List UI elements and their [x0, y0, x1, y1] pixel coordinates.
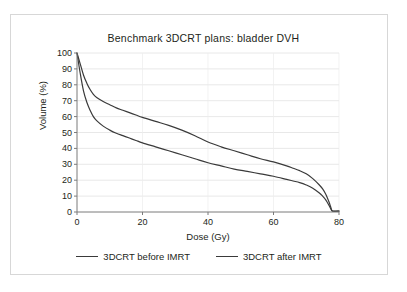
y-tick-label: 40: [62, 143, 72, 153]
x-tick-label: 80: [334, 217, 344, 227]
y-axis-label: Volume (%): [37, 56, 48, 156]
figure-container: Benchmark 3DCRT plans: bladder DVH Volum…: [0, 0, 407, 292]
plot-area: [77, 53, 339, 212]
chart-legend: 3DCRT before IMRT 3DCRT after IMRT: [10, 251, 388, 262]
legend-label: 3DCRT after IMRT: [243, 251, 322, 262]
dvh-line-chart: [77, 53, 339, 212]
y-tick-label: 80: [62, 80, 72, 90]
chart-title: Benchmark 3DCRT plans: bladder DVH: [0, 32, 407, 44]
y-tick-label: 20: [62, 175, 72, 185]
legend-line-icon: [216, 256, 238, 257]
gridlines: [77, 53, 339, 212]
y-tick-label: 10: [62, 191, 72, 201]
legend-item: 3DCRT before IMRT: [76, 251, 190, 262]
legend-line-icon: [76, 256, 98, 257]
y-tick-label: 60: [62, 112, 72, 122]
legend-label: 3DCRT before IMRT: [103, 251, 190, 262]
y-axis-ticks: 0102030405060708090100: [48, 53, 72, 212]
x-tick-label: 0: [74, 217, 79, 227]
tick-marks: [74, 53, 339, 215]
y-tick-label: 0: [67, 207, 72, 217]
x-tick-label: 40: [203, 217, 213, 227]
y-tick-label: 30: [62, 159, 72, 169]
x-tick-label: 60: [268, 217, 278, 227]
x-axis-label: Dose (Gy): [77, 231, 339, 242]
legend-item: 3DCRT after IMRT: [216, 251, 322, 262]
x-axis-ticks: 020406080: [77, 217, 339, 231]
y-tick-label: 100: [57, 48, 72, 58]
y-tick-label: 90: [62, 64, 72, 74]
y-tick-label: 70: [62, 96, 72, 106]
x-tick-label: 20: [137, 217, 147, 227]
y-tick-label: 50: [62, 128, 72, 138]
